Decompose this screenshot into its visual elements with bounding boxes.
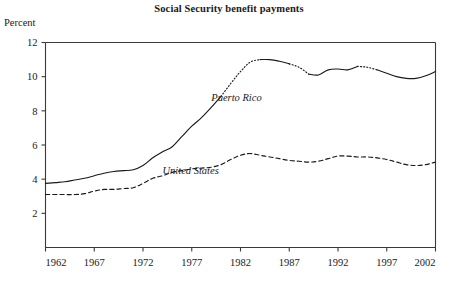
x-tick-marks — [46, 248, 436, 252]
x-tick-label: 1992 — [328, 257, 349, 268]
y-tick-label: 4 — [32, 174, 38, 185]
axis-frame — [46, 43, 436, 248]
x-tick-labels: 196219671972197719821987199219972002 — [46, 257, 436, 268]
y-tick-label: 8 — [32, 106, 37, 117]
x-tick-label: 1967 — [84, 257, 105, 268]
series-group — [46, 59, 436, 194]
y-tick-label: 6 — [32, 140, 37, 151]
series-line-puerto-rico — [289, 64, 309, 74]
x-tick-label: 1997 — [376, 257, 397, 268]
x-tick-label: 1987 — [279, 257, 300, 268]
x-tick-label: 2002 — [415, 257, 436, 268]
chart-figure: Social Security benefit payments Percent… — [0, 0, 458, 283]
series-line-puerto-rico — [377, 70, 436, 79]
series-annotations: Puerto RicoUnited States — [163, 92, 262, 176]
y-tick-label: 2 — [32, 208, 37, 219]
y-tick-labels: 24681012 — [27, 37, 38, 219]
annotation-puerto-rico: Puerto Rico — [210, 92, 261, 103]
y-tick-label: 12 — [27, 37, 38, 48]
plot-area: 24681012 1962196719721977198219871992199… — [0, 0, 458, 283]
annotation-united-states: United States — [163, 165, 219, 176]
x-tick-label: 1962 — [46, 257, 67, 268]
y-tick-label: 10 — [27, 71, 38, 82]
y-tick-marks — [42, 43, 46, 214]
series-line-puerto-rico — [358, 66, 378, 69]
x-tick-label: 1982 — [230, 257, 251, 268]
series-line-puerto-rico — [309, 66, 358, 75]
series-line-puerto-rico — [260, 59, 289, 63]
x-tick-label: 1977 — [181, 257, 202, 268]
x-tick-label: 1972 — [133, 257, 154, 268]
series-line-united-states — [46, 154, 436, 195]
